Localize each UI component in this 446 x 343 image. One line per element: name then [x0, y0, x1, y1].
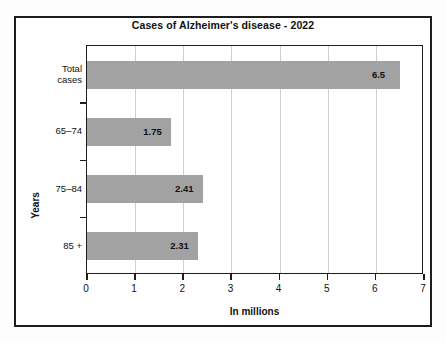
bar-value-label: 2.31: [170, 241, 189, 251]
x-axis-tick: [86, 274, 88, 280]
bar-value-label: 1.75: [143, 127, 162, 137]
x-axis-label: 0: [73, 283, 99, 294]
x-axis-title: In millions: [86, 306, 423, 317]
y-axis-tick: [80, 102, 86, 104]
x-axis-label: 7: [410, 283, 436, 294]
bar-value-label: 2.41: [175, 184, 194, 194]
y-axis-label: 75–84: [12, 183, 82, 194]
y-axis-label: 85 +: [12, 240, 82, 251]
y-axis-category-labels: Years Total cases65–7475–8485 +: [10, 45, 82, 274]
plot-area: 6.51.752.412.31: [86, 45, 423, 274]
x-axis-tick: [375, 274, 377, 280]
x-axis-tick: [134, 274, 136, 280]
x-axis-tick: [230, 274, 232, 280]
x-axis-label: 2: [169, 283, 195, 294]
x-axis-label: 1: [121, 283, 147, 294]
y-axis-tick: [80, 217, 86, 219]
x-axis-tick: [327, 274, 329, 280]
y-axis-label: 65–74: [12, 125, 82, 136]
x-axis-tick: [182, 274, 184, 280]
x-axis-label: 5: [314, 283, 340, 294]
y-axis-tick: [80, 160, 86, 162]
x-axis-label: 3: [217, 283, 243, 294]
chart-title: Cases of Alzheimer's disease - 2022: [14, 19, 432, 31]
x-axis-tick: [279, 274, 281, 280]
x-axis-tick: [423, 274, 425, 280]
x-axis-label: 4: [266, 283, 292, 294]
bar: [87, 61, 400, 89]
y-axis-label: Total cases: [12, 63, 82, 85]
x-axis-label: 6: [362, 283, 388, 294]
bar-value-label: 6.5: [372, 70, 385, 80]
chart-screenshot: Cases of Alzheimer's disease - 2022 Year…: [0, 0, 446, 343]
